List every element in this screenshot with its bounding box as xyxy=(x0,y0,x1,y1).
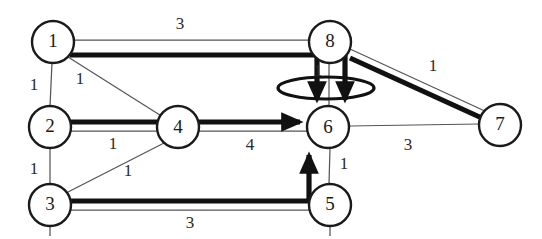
edge-weight-3-5: 3 xyxy=(186,213,195,232)
bold-path-3-5-6 xyxy=(68,155,309,201)
edge-5-6-line xyxy=(329,148,330,184)
edge-weight-2-4: 1 xyxy=(109,134,118,153)
node-1-label: 1 xyxy=(48,30,58,51)
node-3-label: 3 xyxy=(45,193,55,214)
node-7-label: 7 xyxy=(495,113,505,134)
graph-canvas: 1 2 3 4 5 6 xyxy=(0,0,542,239)
edge-weight-8-6: 1 xyxy=(314,61,323,80)
edge-8-7-line xyxy=(350,49,487,112)
edge-weight-3-4: 1 xyxy=(124,161,133,180)
bold-path-1-8-6 xyxy=(70,55,317,100)
edge-weight-1-2: 1 xyxy=(30,75,39,94)
node-2[interactable]: 2 xyxy=(29,106,71,148)
node-4-label: 4 xyxy=(173,116,183,137)
node-1[interactable]: 1 xyxy=(32,21,74,63)
node-5-label: 5 xyxy=(325,193,335,214)
self-loop-6-icon xyxy=(278,77,374,99)
node-4[interactable]: 4 xyxy=(157,106,199,148)
node-7[interactable]: 7 xyxy=(479,104,521,146)
graph-figure: 1 2 3 4 5 6 xyxy=(0,0,542,239)
node-6-label: 6 xyxy=(323,116,333,137)
edge-1-2-line xyxy=(50,63,52,106)
edge-weight-1-4: 1 xyxy=(76,69,85,88)
edge-weight-5-6: 1 xyxy=(340,154,349,173)
node-8-label: 8 xyxy=(325,30,335,51)
edge-weight-1-8: 3 xyxy=(176,14,185,33)
edge-weight-4-6: 4 xyxy=(246,135,255,154)
node-2-label: 2 xyxy=(45,115,55,136)
bold-path-8-7 xyxy=(350,58,484,119)
node-6[interactable]: 6 xyxy=(307,106,349,148)
node-3[interactable]: 3 xyxy=(29,184,71,226)
node-8[interactable]: 8 xyxy=(309,21,351,63)
edge-weight-2-3: 1 xyxy=(30,159,39,178)
edge-weight-6-7: 3 xyxy=(404,135,413,154)
edge-weight-8-7: 1 xyxy=(429,56,438,75)
node-5[interactable]: 5 xyxy=(309,184,351,226)
edge-6-7-line xyxy=(349,124,479,126)
